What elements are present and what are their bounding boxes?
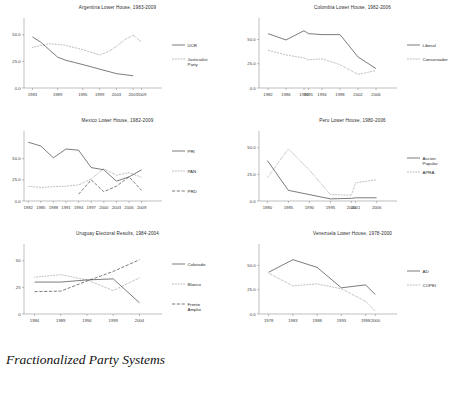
svg-text:COPEI: COPEI (423, 283, 437, 288)
svg-text:APRA: APRA (423, 170, 435, 175)
chart-panel-mexico: Mexico Lower House, 1982-2009 0.025.050.… (0, 113, 235, 226)
svg-text:25.0: 25.0 (247, 61, 256, 66)
svg-text:2003: 2003 (112, 205, 122, 210)
svg-text:0.0: 0.0 (15, 86, 21, 91)
svg-text:2009: 2009 (137, 205, 147, 210)
svg-text:2006: 2006 (124, 205, 134, 210)
svg-text:0.0: 0.0 (15, 199, 21, 204)
chart-plot-venezuela: 0.025.050.0197819831988199319982000ADCOP… (235, 226, 470, 339)
svg-text:2003: 2003 (112, 92, 122, 97)
chart-plot-uruguay: 0255019841989199419992004ColoradoBlancoF… (0, 226, 235, 339)
svg-text:Blanco: Blanco (188, 282, 202, 287)
svg-text:1982: 1982 (24, 205, 34, 210)
svg-text:Party: Party (188, 62, 199, 67)
chart-panel-uruguay: Uruguay Electoral Results, 1984-2004 025… (0, 226, 235, 339)
svg-text:50.0: 50.0 (247, 37, 256, 42)
svg-text:2009: 2009 (137, 92, 147, 97)
svg-text:0.0: 0.0 (250, 86, 256, 91)
svg-text:1990: 1990 (305, 205, 315, 210)
svg-text:1988: 1988 (312, 318, 322, 323)
svg-text:1998: 1998 (361, 318, 371, 323)
svg-text:1998: 1998 (335, 92, 345, 97)
svg-text:1988: 1988 (49, 205, 59, 210)
svg-text:1982: 1982 (263, 92, 273, 97)
svg-text:Liberal: Liberal (423, 43, 436, 48)
svg-text:2006: 2006 (371, 92, 381, 97)
svg-text:Conservador: Conservador (423, 57, 449, 62)
svg-text:2006: 2006 (372, 205, 382, 210)
svg-text:1984: 1984 (30, 318, 40, 323)
svg-text:1985: 1985 (36, 205, 46, 210)
svg-text:AD: AD (423, 269, 429, 274)
svg-text:PRD: PRD (188, 189, 197, 194)
svg-text:1994: 1994 (82, 318, 92, 323)
svg-text:1995: 1995 (326, 205, 336, 210)
svg-text:2004: 2004 (135, 318, 145, 323)
svg-text:2000: 2000 (371, 318, 381, 323)
svg-text:0.0: 0.0 (250, 199, 256, 204)
svg-text:Amplio: Amplio (188, 307, 202, 312)
svg-text:1999: 1999 (95, 92, 105, 97)
svg-text:1985: 1985 (284, 205, 294, 210)
chart-plot-colombia: 0.025.050.019821986199019911994199820022… (235, 0, 470, 113)
svg-text:1994: 1994 (74, 205, 84, 210)
chart-plot-mexico: 0.025.050.019821985198819911994199720002… (0, 113, 235, 226)
svg-text:25.0: 25.0 (12, 177, 21, 182)
chart-panel-argentina: Argentina Lower House, 1983-2009 0.025.0… (0, 0, 235, 113)
chart-panel-venezuela: Venezuela Lower House, 1978-2000 0.025.0… (235, 226, 470, 339)
svg-text:0.0: 0.0 (250, 312, 256, 317)
svg-text:1995: 1995 (78, 92, 88, 97)
svg-text:1986: 1986 (281, 92, 291, 97)
svg-text:50: 50 (16, 258, 21, 263)
chart-plot-argentina: 0.025.050.01983198919951999200320072009U… (0, 0, 235, 113)
svg-text:Colorado: Colorado (188, 262, 206, 267)
svg-text:1991: 1991 (61, 205, 71, 210)
bottom-chart-row: Brazil Lower House, 1982-2006 Democratic… (0, 386, 470, 407)
chart-panel-colombia: Colombia Lower House, 1982-2006 0.025.05… (235, 0, 470, 113)
svg-text:1983: 1983 (288, 318, 298, 323)
svg-text:25: 25 (16, 285, 21, 290)
svg-text:1997: 1997 (87, 205, 97, 210)
chart-panel-peru: Peru Lower House, 1980-2006 0.025.050.01… (235, 113, 470, 226)
chart-grid: Argentina Lower House, 1983-2009 0.025.0… (0, 0, 470, 340)
svg-text:1991: 1991 (304, 92, 314, 97)
svg-text:1983: 1983 (28, 92, 38, 97)
svg-text:1989: 1989 (56, 318, 66, 323)
svg-text:25.0: 25.0 (12, 59, 21, 64)
svg-text:PAN: PAN (188, 169, 197, 174)
svg-text:Popular: Popular (423, 161, 439, 166)
svg-text:1994: 1994 (317, 92, 327, 97)
svg-text:PRI: PRI (188, 149, 195, 154)
svg-text:2001: 2001 (351, 205, 361, 210)
svg-text:50.0: 50.0 (247, 263, 256, 268)
svg-text:1999: 1999 (109, 318, 119, 323)
svg-text:50.0: 50.0 (12, 32, 21, 37)
svg-text:50.0: 50.0 (247, 145, 256, 150)
chart-plot-peru: 0.025.050.01980198519901995200020012006A… (235, 113, 470, 226)
svg-text:50.0: 50.0 (12, 156, 21, 161)
svg-text:1980: 1980 (263, 205, 273, 210)
svg-text:0: 0 (18, 312, 21, 317)
svg-text:UCR: UCR (188, 43, 198, 48)
svg-text:1978: 1978 (264, 318, 274, 323)
section-heading: Fractionalized Party Systems (6, 352, 165, 368)
svg-text:2000: 2000 (99, 205, 109, 210)
svg-text:25.0: 25.0 (247, 172, 256, 177)
svg-text:2002: 2002 (353, 92, 363, 97)
svg-text:25.0: 25.0 (247, 287, 256, 292)
svg-text:1993: 1993 (337, 318, 347, 323)
svg-text:1989: 1989 (53, 92, 63, 97)
